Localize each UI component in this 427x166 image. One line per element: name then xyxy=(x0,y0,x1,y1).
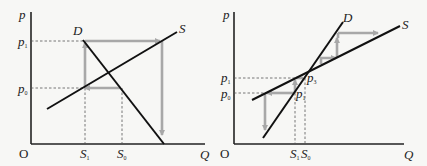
right-p0-label: p0 xyxy=(220,86,231,101)
right-x-axis-label: Q xyxy=(404,147,414,162)
right-p1-label: p1 xyxy=(220,70,231,85)
left-y-axis-label: p xyxy=(18,7,26,22)
right-y-axis-label: p xyxy=(222,7,230,22)
left-p1-label: p1 xyxy=(17,34,28,49)
left-p0-label: p0 xyxy=(17,81,28,96)
right-panel: p Q O D S p1 p0 p3 p1 S1 S0 xyxy=(220,7,414,162)
right-demand-label: D xyxy=(342,10,353,25)
left-supply-label: S xyxy=(179,21,186,36)
right-origin-label: O xyxy=(220,146,229,161)
right-p3-point-label: p3 xyxy=(306,70,317,85)
cobweb-diagrams: p Q O D S p1 p0 S1 S0 p Q O D xyxy=(0,0,427,166)
left-panel: p Q O D S p1 p0 S1 S0 xyxy=(17,7,210,162)
right-s1-label: S1 xyxy=(290,146,300,161)
right-s0-label: S0 xyxy=(301,146,311,161)
left-supply-curve xyxy=(47,32,177,109)
right-supply-label: S xyxy=(402,17,409,32)
left-origin-label: O xyxy=(19,146,28,161)
left-s0-label: S0 xyxy=(117,146,127,161)
left-x-axis-label: Q xyxy=(200,147,210,162)
left-s1-label: S1 xyxy=(80,146,90,161)
left-demand-curve xyxy=(83,40,164,144)
right-supply-curve xyxy=(252,26,400,100)
right-demand-curve xyxy=(263,22,343,138)
left-demand-label: D xyxy=(72,23,83,38)
right-p1-point-label: p1 xyxy=(295,86,306,101)
